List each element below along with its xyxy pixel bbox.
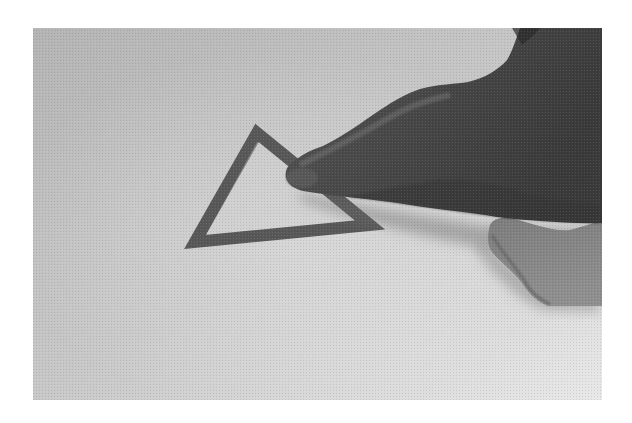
photo: Grayscale photograph of a hand with an i…	[33, 28, 602, 400]
page-canvas: Grayscale photograph of a hand with an i…	[0, 0, 632, 423]
halftone-texture	[33, 28, 602, 400]
photo-svg	[33, 28, 602, 400]
